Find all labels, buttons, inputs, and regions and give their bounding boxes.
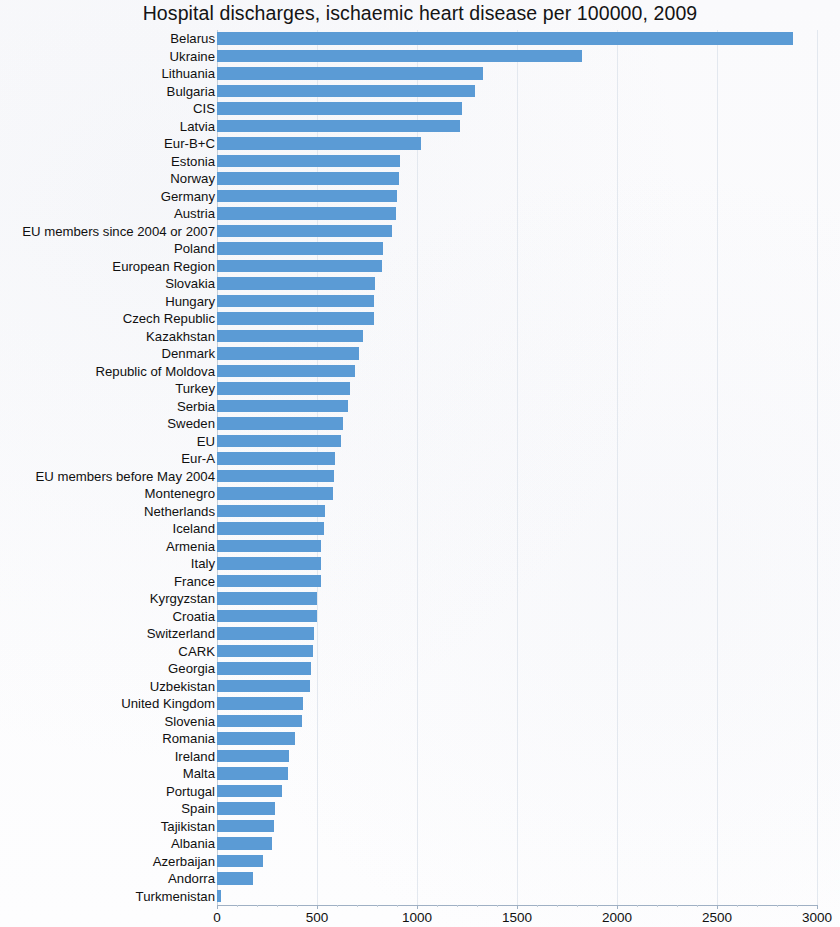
bar-row: Iceland [0, 520, 840, 538]
category-label: Republic of Moldova [96, 363, 216, 381]
bar [217, 470, 334, 483]
bar-row: Poland [0, 240, 840, 258]
x-axis-tick [817, 905, 818, 909]
bar [217, 680, 310, 693]
bar-row: Georgia [0, 660, 840, 678]
bar [217, 120, 460, 133]
x-axis-tick-label: 2500 [682, 910, 752, 925]
category-label: France [174, 573, 215, 591]
bar-row: Azerbaijan [0, 853, 840, 871]
bar-row: Ireland [0, 748, 840, 766]
bar-row: Romania [0, 730, 840, 748]
x-axis-tick-label: 500 [282, 910, 352, 925]
category-label: Turkmenistan [136, 888, 215, 906]
x-axis-tick-label: 3000 [782, 910, 840, 925]
bar [217, 540, 321, 553]
bar [217, 277, 375, 290]
x-axis-minor-tick [557, 905, 558, 907]
x-axis-minor-tick [377, 905, 378, 907]
category-label: Bulgaria [167, 83, 215, 101]
category-label: Hungary [165, 293, 215, 311]
x-axis-minor-tick [597, 905, 598, 907]
x-axis-minor-tick [337, 905, 338, 907]
bar [217, 365, 355, 378]
category-label: Tajikistan [161, 818, 215, 836]
bar-row: Eur-A [0, 450, 840, 468]
x-axis-minor-tick [777, 905, 778, 907]
category-label: Estonia [171, 153, 215, 171]
category-label: Kazakhstan [146, 328, 215, 346]
plot-area: BelarusUkraineLithuaniaBulgariaCISLatvia… [0, 0, 840, 927]
bar-row: Uzbekistan [0, 678, 840, 696]
category-label: CIS [193, 100, 215, 118]
category-label: Latvia [180, 118, 215, 136]
bar [217, 837, 272, 850]
bar [217, 732, 295, 745]
x-axis-minor-tick [277, 905, 278, 907]
bar [217, 225, 392, 238]
category-label: Andorra [168, 870, 215, 888]
bar-row: Bulgaria [0, 83, 840, 101]
bar [217, 522, 324, 535]
bar-row: Hungary [0, 293, 840, 311]
bar [217, 137, 421, 150]
bar-row: Switzerland [0, 625, 840, 643]
category-label: Germany [161, 188, 215, 206]
x-axis-minor-tick [797, 905, 798, 907]
bar [217, 400, 348, 413]
x-axis-tick [717, 905, 718, 909]
bar-row: Sweden [0, 415, 840, 433]
bar [217, 662, 311, 675]
bar [217, 890, 221, 903]
category-label: Norway [170, 170, 215, 188]
bar [217, 575, 321, 588]
category-label: Azerbaijan [153, 853, 215, 871]
category-label: Eur-B+C [164, 135, 215, 153]
category-label: Switzerland [147, 625, 215, 643]
bar-row: Norway [0, 170, 840, 188]
category-label: Iceland [172, 520, 215, 538]
bar-row: EU members before May 2004 [0, 468, 840, 486]
bar [217, 750, 289, 763]
bar [217, 610, 317, 623]
bar-row: Czech Republic [0, 310, 840, 328]
x-axis-tick [617, 905, 618, 909]
category-label: Denmark [162, 345, 216, 363]
bar [217, 785, 282, 798]
category-label: Georgia [168, 660, 215, 678]
bar-row: Estonia [0, 153, 840, 171]
bar [217, 172, 399, 185]
category-label: Serbia [177, 398, 215, 416]
bar [217, 645, 313, 658]
category-label: Montenegro [145, 485, 215, 503]
bar [217, 767, 288, 780]
bar-row: Armenia [0, 538, 840, 556]
category-label: United Kingdom [121, 695, 215, 713]
category-label: Slovenia [164, 713, 215, 731]
x-axis-tick-label: 1500 [482, 910, 552, 925]
x-axis-minor-tick [457, 905, 458, 907]
bar-row: Netherlands [0, 503, 840, 521]
x-axis-minor-tick [577, 905, 578, 907]
bar [217, 242, 383, 255]
bar [217, 102, 462, 115]
bar-row: Latvia [0, 118, 840, 136]
bar-row: Kazakhstan [0, 328, 840, 346]
bar-row: Austria [0, 205, 840, 223]
bar-row: Denmark [0, 345, 840, 363]
bar-row: Kyrgyzstan [0, 590, 840, 608]
x-axis-minor-tick [737, 905, 738, 907]
x-axis-tick [417, 905, 418, 909]
bar-row: European Region [0, 258, 840, 276]
category-label: Malta [183, 765, 215, 783]
bar [217, 417, 343, 430]
category-label: Ireland [175, 748, 215, 766]
bar-row: Belarus [0, 30, 840, 48]
bar [217, 312, 374, 325]
bar-row: France [0, 573, 840, 591]
x-axis-minor-tick [637, 905, 638, 907]
bar-row: Slovenia [0, 713, 840, 731]
category-label: Sweden [167, 415, 215, 433]
bar-row: Italy [0, 555, 840, 573]
category-label: EU members before May 2004 [35, 468, 215, 486]
